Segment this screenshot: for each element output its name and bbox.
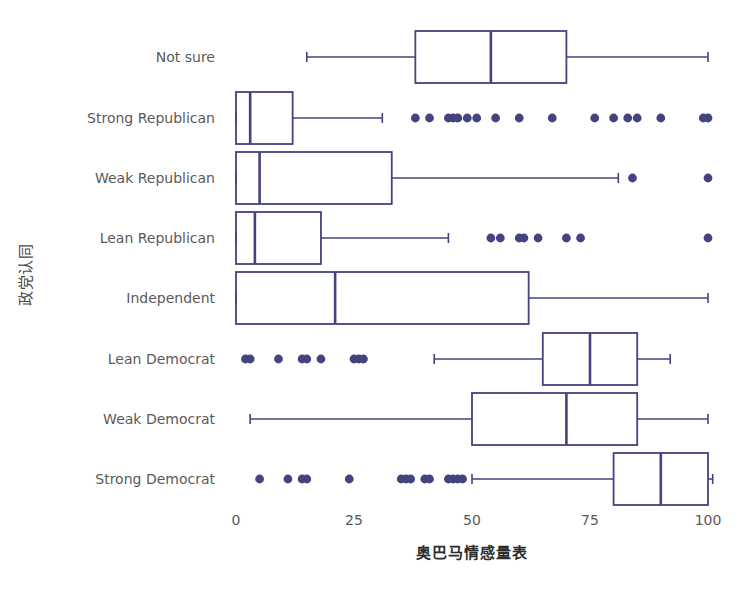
box-iqr-rect — [236, 272, 529, 324]
outlier-point — [590, 114, 599, 123]
x-axis-label: 奥巴马情感量表 — [236, 541, 708, 562]
outlier-point — [274, 355, 283, 364]
y-category-label: Weak Republican — [95, 170, 215, 186]
outlier-point — [359, 355, 368, 364]
x-tick-label: 25 — [345, 512, 363, 528]
box-plot-group — [255, 453, 713, 505]
outlier-point — [656, 114, 665, 123]
outlier-point — [520, 234, 529, 243]
x-tick-label: 50 — [463, 512, 481, 528]
outlier-point — [609, 114, 618, 123]
outlier-point — [496, 234, 505, 243]
box-plot-group — [241, 333, 670, 385]
y-category-label: Strong Democrat — [95, 471, 215, 487]
y-category-label: Independent — [126, 290, 215, 306]
outlier-point — [463, 114, 472, 123]
y-category-label: Lean Republican — [100, 230, 215, 246]
y-axis-label: 政党认同 — [14, 205, 35, 345]
box-plot-group — [236, 152, 712, 204]
x-tick-label: 0 — [232, 512, 241, 528]
outlier-point — [704, 114, 713, 123]
outlier-point — [486, 234, 495, 243]
outlier-point — [576, 234, 585, 243]
outlier-point — [453, 114, 462, 123]
outlier-point — [562, 234, 571, 243]
outlier-point — [628, 174, 637, 183]
y-category-label: Not sure — [156, 49, 215, 65]
box-plot-group — [236, 92, 712, 144]
box-plot-group — [236, 272, 708, 324]
outlier-point — [458, 475, 467, 484]
outlier-point — [548, 114, 557, 123]
box-iqr-rect — [472, 393, 637, 445]
x-tick-label: 100 — [695, 512, 722, 528]
outlier-point — [515, 114, 524, 123]
y-category-label: Strong Republican — [87, 110, 215, 126]
outlier-point — [491, 114, 500, 123]
box-iqr-rect — [236, 212, 321, 264]
outlier-point — [302, 475, 311, 484]
outlier-point — [255, 475, 264, 484]
outlier-point — [302, 355, 311, 364]
box-plot-group — [307, 31, 708, 83]
outlier-point — [317, 355, 326, 364]
outlier-point — [633, 114, 642, 123]
outlier-point — [472, 114, 481, 123]
box-iqr-rect — [236, 92, 293, 144]
outlier-point — [411, 114, 420, 123]
outlier-point — [345, 475, 354, 484]
outlier-point — [534, 234, 543, 243]
outlier-point — [246, 355, 255, 364]
outlier-point — [425, 114, 434, 123]
y-category-label: Lean Democrat — [108, 351, 215, 367]
y-category-label: Weak Democrat — [103, 411, 215, 427]
outlier-point — [425, 475, 434, 484]
box-plot-group — [236, 212, 712, 264]
outlier-point — [623, 114, 632, 123]
outlier-point — [284, 475, 293, 484]
outlier-point — [406, 475, 415, 484]
boxplot-chart: 政党认同 奥巴马情感量表 0255075100 Not sureStrong R… — [0, 0, 752, 591]
plot-area — [0, 0, 752, 591]
outlier-point — [704, 234, 713, 243]
outlier-point — [704, 174, 713, 183]
box-plot-group — [250, 393, 708, 445]
x-tick-label: 75 — [581, 512, 599, 528]
